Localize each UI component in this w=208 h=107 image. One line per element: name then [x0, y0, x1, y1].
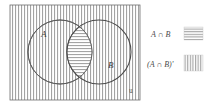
- legend-item-0-label: A ∩ B: [150, 30, 171, 39]
- set-b-label: B: [108, 60, 114, 70]
- universal-set-label: u: [129, 86, 133, 95]
- figure-canvas: A B u A ∩ B (A ∩ B)': [0, 0, 208, 107]
- legend-item-0-swatch: [184, 27, 203, 40]
- venn-diagram-figure: A B u A ∩ B (A ∩ B)': [0, 0, 208, 107]
- set-a-label: A: [40, 29, 47, 39]
- legend-item-1-label: (A ∩ B)': [147, 60, 174, 69]
- legend-item-1-swatch: [184, 55, 203, 71]
